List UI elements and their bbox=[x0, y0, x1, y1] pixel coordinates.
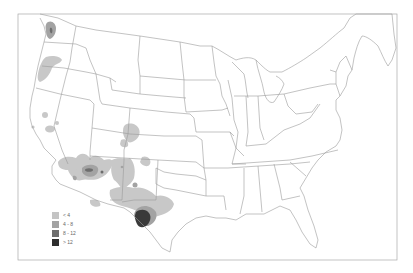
legend-swatch-lt4 bbox=[52, 212, 59, 219]
legend-label: > 12 bbox=[63, 239, 73, 246]
legend-item: > 12 bbox=[52, 238, 112, 247]
legend-swatch-8-12 bbox=[52, 230, 59, 237]
density-shading bbox=[31, 21, 174, 227]
legend-item: < 4 bbox=[52, 211, 112, 220]
legend: < 4 4 - 8 8 - 12 > 12 bbox=[52, 211, 112, 247]
legend-label: < 4 bbox=[63, 212, 70, 219]
legend-swatch-4-8 bbox=[52, 221, 59, 228]
legend-swatch-gt12 bbox=[52, 239, 59, 246]
legend-label: 4 - 8 bbox=[63, 221, 73, 228]
legend-item: 4 - 8 bbox=[52, 220, 112, 229]
legend-label: 8 - 12 bbox=[63, 230, 76, 237]
legend-item: 8 - 12 bbox=[52, 229, 112, 238]
